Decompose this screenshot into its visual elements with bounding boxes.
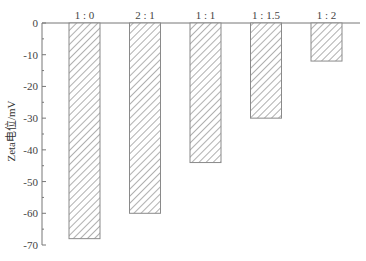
bar-1-1-5 [251, 23, 282, 118]
category-label: 1 : 0 [75, 9, 95, 21]
category-label: 2 : 1 [135, 9, 155, 21]
plot-area: 0-10-20-30-40-50-60-701 : 02 : 11 : 11 :… [4, 9, 360, 251]
category-label: 1 : 2 [317, 9, 337, 21]
y-tick-label: -20 [23, 80, 38, 92]
y-tick-label: 0 [33, 17, 39, 29]
bar-1-0 [69, 23, 100, 239]
y-tick-label: -70 [23, 239, 38, 251]
y-tick-label: -40 [23, 144, 38, 156]
y-tick-label: -60 [23, 207, 38, 219]
bar-1-1 [190, 23, 221, 163]
y-tick-label: -50 [23, 176, 38, 188]
category-label: 1 : 1 [196, 9, 216, 21]
bar-2-1 [130, 23, 161, 213]
y-axis-title: Zeta电位/mV [4, 100, 17, 161]
zeta-potential-bar-chart: 0-10-20-30-40-50-60-701 : 02 : 11 : 11 :… [0, 0, 366, 261]
y-tick-label: -10 [23, 49, 38, 61]
category-label: 1 : 1.5 [252, 9, 280, 21]
y-tick-label: -30 [23, 112, 38, 124]
bar-1-2 [311, 23, 342, 61]
